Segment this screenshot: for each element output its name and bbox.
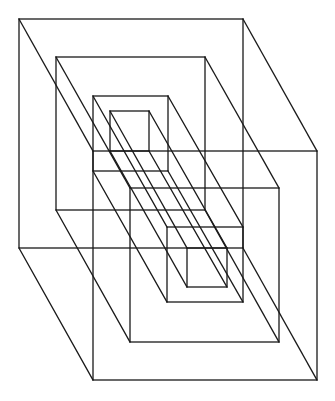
wireframe-canvas — [0, 0, 335, 401]
depth-edge-bottom-right — [243, 248, 317, 380]
depth-edge-top-right — [243, 19, 317, 151]
back-face — [167, 227, 243, 302]
nested-boxes-drawing — [0, 0, 335, 401]
box-third — [93, 96, 243, 302]
front-face — [93, 96, 168, 171]
box-outer — [19, 19, 317, 380]
depth-edge-top-right — [205, 57, 279, 188]
front-face — [19, 19, 243, 248]
back-face — [187, 248, 227, 287]
back-face — [130, 188, 279, 342]
depth-edge-bottom-left — [19, 248, 93, 380]
depth-edge-bottom-right — [149, 151, 227, 287]
